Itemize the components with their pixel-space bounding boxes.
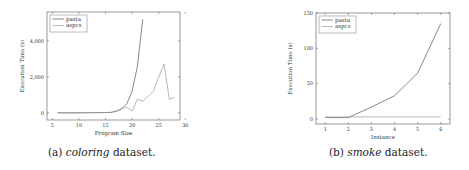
x-tick-label: 3	[370, 126, 373, 132]
caption-a-name: coloring	[66, 146, 110, 158]
y-axis-label: Execution Time (s)	[19, 40, 25, 92]
x-tick-label: 5	[416, 126, 419, 132]
series-line-aspcs	[58, 64, 175, 113]
x-axis-label: Instance	[371, 134, 395, 140]
chart-coloring: 5101520253002,0004,000Program SizeExecut…	[19, 12, 189, 137]
y-axis-label: Execution Time (s)	[287, 42, 293, 94]
y-tick-label: 150	[303, 10, 313, 16]
y-tick-label: 0	[310, 116, 313, 122]
legend-label-aspcs: aspcs	[66, 22, 82, 29]
caption-a: (a) coloring dataset.	[48, 146, 156, 158]
x-tick-label: 6	[439, 126, 442, 132]
x-axis-label: Program Size	[95, 130, 133, 137]
y-tick-label: 4,000	[30, 38, 44, 44]
caption-a-label: (a)	[48, 146, 62, 158]
caption-b-suffix: dataset.	[385, 146, 428, 158]
y-tick-label: 2,000	[30, 74, 44, 80]
figure-canvas: 5101520253002,0004,000Program SizeExecut…	[0, 0, 469, 170]
x-tick-label: 10	[76, 122, 82, 128]
y-tick-label: 100	[303, 45, 313, 51]
caption-b-label: (b)	[329, 146, 344, 158]
x-tick-label: 15	[102, 122, 108, 128]
x-tick-label: 1	[324, 126, 327, 132]
chart-smoke: 123456050100150InstanceExecution Time (s…	[287, 10, 450, 140]
caption-a-suffix: dataset.	[113, 146, 156, 158]
legend-label-aspcs: aspcs	[335, 23, 351, 30]
series-line-pasta	[58, 19, 143, 113]
caption-b-name: smoke	[347, 146, 381, 158]
x-tick-label: 30	[182, 122, 188, 128]
x-tick-label: 4	[393, 126, 396, 132]
y-tick-label: 50	[307, 80, 313, 86]
y-tick-label: 0	[41, 110, 44, 116]
x-tick-label: 20	[129, 122, 135, 128]
x-tick-label: 2	[347, 126, 350, 132]
series-line-pasta	[325, 24, 441, 118]
x-tick-label: 5	[51, 122, 54, 128]
x-tick-label: 25	[156, 122, 162, 128]
caption-b: (b) smoke dataset.	[329, 146, 427, 158]
